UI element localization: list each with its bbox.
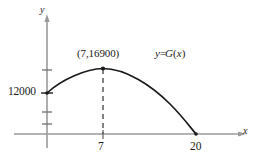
y-axis-label: y <box>40 5 44 15</box>
x-intercept-marker <box>194 132 198 136</box>
peak-point-marker <box>101 66 105 70</box>
peak-coordinate-annotation: (7,16900) <box>77 48 119 59</box>
x-tick-label-7: 7 <box>98 141 104 153</box>
function-label: y=G(x) <box>155 48 185 59</box>
function-label-close-paren: ) <box>182 47 186 59</box>
y-tick-label-12000: 12000 <box>8 86 36 98</box>
y-axis <box>44 14 49 148</box>
x-axis <box>14 131 246 136</box>
curve-g-of-x <box>47 69 196 135</box>
graph-figure: y x 12000 7 20 (7,16900) y=G(x) <box>0 0 261 163</box>
x-tick-label-20: 20 <box>190 141 202 153</box>
function-label-name: G <box>165 47 173 59</box>
plot-canvas <box>0 0 261 163</box>
x-axis-label: x <box>243 126 247 136</box>
y-intercept-marker <box>45 91 49 95</box>
